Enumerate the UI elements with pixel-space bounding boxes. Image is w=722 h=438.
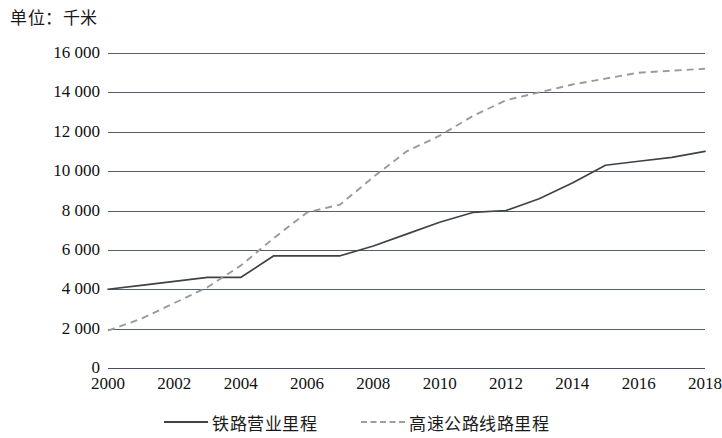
- x-tick-label: 2008: [356, 374, 390, 394]
- y-tick-label: 10 000: [0, 161, 100, 181]
- series-line-2: [108, 69, 705, 331]
- x-axis-tick-labels: 2000200220042006200820102012201420162018: [0, 374, 713, 402]
- y-tick-label: 6 000: [0, 240, 100, 260]
- y-tick-label: 8 000: [0, 201, 100, 221]
- x-tick-label: 2010: [423, 374, 457, 394]
- legend: 铁路营业里程高速公路线路里程: [0, 406, 713, 438]
- x-tick-label: 2002: [157, 374, 191, 394]
- legend-dashed-line-icon: [361, 421, 405, 423]
- x-tick-label: 2012: [489, 374, 523, 394]
- plot-area: [108, 53, 705, 368]
- y-tick-label: 16 000: [0, 43, 100, 63]
- x-tick-label: 2016: [622, 374, 656, 394]
- series-line-1: [108, 151, 705, 289]
- legend-label: 高速公路线路里程: [409, 410, 549, 435]
- y-axis-tick-labels: 02 0004 0006 0008 00010 00012 00014 0001…: [0, 0, 100, 438]
- legend-solid-line-icon: [164, 421, 208, 423]
- y-tick-label: 2 000: [0, 319, 100, 339]
- legend-entry: 铁路营业里程: [164, 410, 317, 435]
- x-tick-label: 2018: [688, 374, 722, 394]
- series-container: [108, 53, 705, 368]
- x-tick-label: 2014: [555, 374, 589, 394]
- x-tick-label: 2004: [224, 374, 258, 394]
- y-tick-label: 12 000: [0, 122, 100, 142]
- y-tick-label: 14 000: [0, 82, 100, 102]
- x-tick-label: 2000: [91, 374, 125, 394]
- y-tick-label: 4 000: [0, 279, 100, 299]
- legend-label: 铁路营业里程: [212, 410, 317, 435]
- gridline: [108, 368, 705, 369]
- legend-entry: 高速公路线路里程: [361, 410, 549, 435]
- x-tick-label: 2006: [290, 374, 324, 394]
